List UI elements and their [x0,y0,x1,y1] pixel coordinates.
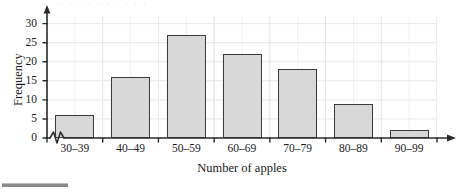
x-axis-title: Number of apples [47,161,437,176]
x-tick-label: 80–89 [326,142,382,154]
x-tick-label: 30–39 [47,142,103,154]
histogram-figure: · · · · · · · · · · 051015202530 30–3940… [0,0,458,193]
x-tick-label: 90–99 [381,142,437,154]
y-tick-label: 0 [15,132,37,144]
x-tick-label: 40–49 [103,142,159,154]
x-tick-label: 60–69 [214,142,270,154]
footer-rule [2,183,68,187]
x-tick-label: 70–79 [270,142,326,154]
y-axis-title: Frequency [11,32,26,128]
y-tick-label: 30 [15,18,37,30]
x-tick-label: 50–59 [158,142,214,154]
